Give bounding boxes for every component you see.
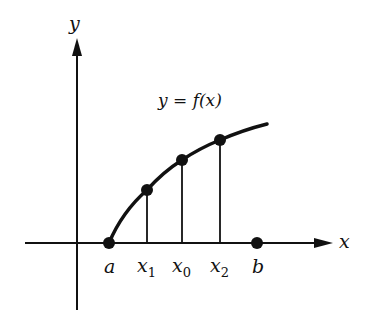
label-x2: x2 [210, 254, 229, 280]
x-axis-arrowhead-icon [314, 238, 333, 248]
x-axis-label: x [339, 230, 350, 252]
point-x1-dot-icon [141, 184, 153, 196]
function-graph-diagram: y x y = f(x) a x1 x0 x2 b [0, 0, 373, 334]
label-a: a [104, 255, 115, 277]
point-x2-dot-icon [214, 134, 226, 146]
label-x1: x1 [137, 254, 156, 280]
x-axis: x [25, 230, 350, 252]
point-x0-dot-icon [176, 154, 188, 166]
label-b: b [252, 255, 264, 277]
point-b-dot-icon [251, 237, 263, 249]
curve-label: y = f(x) [157, 90, 222, 110]
curve-label-text: y = f(x) [157, 90, 222, 110]
y-axis-arrowhead-icon [72, 38, 82, 56]
function-curve [109, 124, 267, 243]
y-axis-label: y [68, 12, 80, 34]
label-x0: x0 [172, 254, 191, 280]
point-a-dot-icon [103, 237, 115, 249]
y-axis: y [68, 12, 82, 310]
